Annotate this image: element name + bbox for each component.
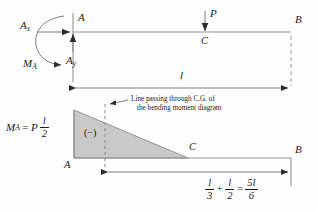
eq-t3-num: 5l	[245, 178, 257, 189]
span-label-l: l	[180, 70, 183, 81]
load-p-label: P	[210, 8, 217, 19]
node-b-label-bmd: B	[295, 144, 302, 155]
eq-t3-den: 6	[245, 189, 257, 201]
eq-t2-den: 2	[225, 189, 234, 201]
node-b-label-top: B	[295, 14, 302, 25]
reaction-moment-arc	[36, 16, 64, 65]
node-c-label-top: C	[201, 36, 208, 47]
reaction-moment-label: MA	[23, 58, 37, 70]
ma-frac-den: 2	[40, 127, 49, 139]
eq-equals: =	[234, 184, 245, 195]
bmd-sign-label: (−)	[84, 128, 96, 138]
eq-t1-num: l	[205, 178, 214, 189]
eq-plus: +	[214, 184, 225, 195]
cg-annotation-line2: the bending moment diagram	[137, 104, 221, 113]
node-a-label-bmd: A	[64, 160, 70, 171]
reaction-ax-label: Ax	[20, 20, 30, 32]
ma-frac-num: l	[40, 116, 49, 127]
node-c-label-bmd: C	[189, 142, 196, 153]
reaction-ay-label: Ay	[66, 55, 76, 67]
eq-t1-den: 3	[205, 189, 214, 201]
dimension-equation-5l6: l 3 + l 2 = 5l 6	[205, 178, 258, 201]
node-a-label-top: A	[78, 12, 85, 23]
eq-t2-num: l	[225, 178, 234, 189]
diagram-canvas: Ax A Ay MA P C B l MA = P l 2 (−) A C B …	[0, 0, 318, 212]
bmd-moment-value: MA = P l 2	[6, 116, 49, 139]
cg-annotation-line1: Line passing through C.G. of	[131, 95, 215, 104]
cg-leader-line	[110, 100, 128, 104]
